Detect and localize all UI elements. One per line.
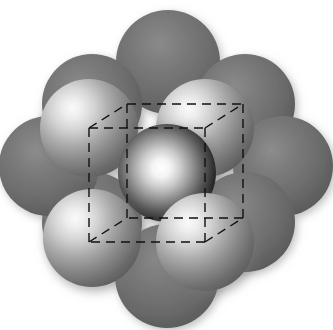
sphere-front-bottom-left [43,189,141,287]
figure-canvas [0,0,333,330]
crystal-structure-figure [0,0,333,330]
